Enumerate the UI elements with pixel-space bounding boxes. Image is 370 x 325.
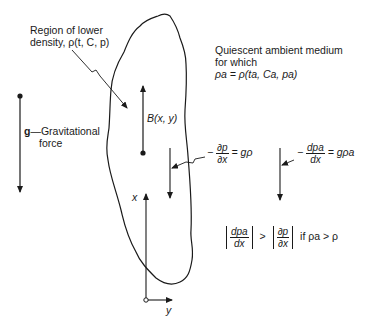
ambient-medium-label: Quiescent ambient medium for which ρa = … bbox=[215, 44, 343, 80]
outer-eq-rhs: = gρa bbox=[328, 146, 355, 158]
region-leader-line bbox=[72, 50, 127, 108]
ambient-label-line3: ρa = ρ(ta, Ca, pa) bbox=[215, 68, 343, 80]
buoyancy-label: B(x, y) bbox=[147, 112, 177, 124]
inequality-condition: if ρa > ρ bbox=[300, 230, 338, 242]
gravity-label-line2: force bbox=[24, 137, 100, 149]
outer-gradient-equation: − dpa dx = gρa bbox=[297, 142, 354, 165]
region-label-line1: Region of lower bbox=[30, 24, 109, 36]
gradient-inequality: dpa dx > ∂p ∂x if ρa > ρ bbox=[226, 226, 338, 249]
low-density-region-outline bbox=[107, 14, 193, 284]
ambient-label-line2: for which bbox=[215, 56, 343, 68]
ambient-label-line1: Quiescent ambient medium bbox=[215, 44, 343, 56]
region-label: Region of lower density, ρ(t, C, p) bbox=[30, 24, 109, 48]
gravity-label-line1: —Gravitational bbox=[30, 125, 99, 137]
region-label-line2: density, ρ(t, C, p) bbox=[30, 36, 109, 48]
outer-gradient-leader bbox=[282, 160, 294, 165]
axis-x-label: x bbox=[132, 191, 137, 203]
inner-eq-fraction: ∂p ∂x bbox=[216, 142, 229, 165]
inequality-left-abs: dpa dx bbox=[226, 226, 253, 249]
inner-gradient-equation: − ∂p ∂x = gρ bbox=[207, 142, 252, 165]
axis-y-label: y bbox=[166, 304, 171, 316]
outer-eq-sign: − bbox=[297, 146, 303, 158]
coordinate-axes bbox=[144, 194, 172, 302]
inequality-right-abs: ∂p ∂x bbox=[273, 226, 294, 249]
inequality-operator: > bbox=[260, 230, 266, 242]
inner-eq-rhs: = gρ bbox=[232, 146, 253, 158]
outer-eq-fraction: dpa dx bbox=[306, 142, 325, 165]
gravity-arrow bbox=[17, 93, 22, 192]
gravity-label: g—Gravitational force bbox=[24, 125, 100, 149]
buoyancy-arrow bbox=[140, 86, 145, 156]
inner-eq-sign: − bbox=[207, 146, 213, 158]
